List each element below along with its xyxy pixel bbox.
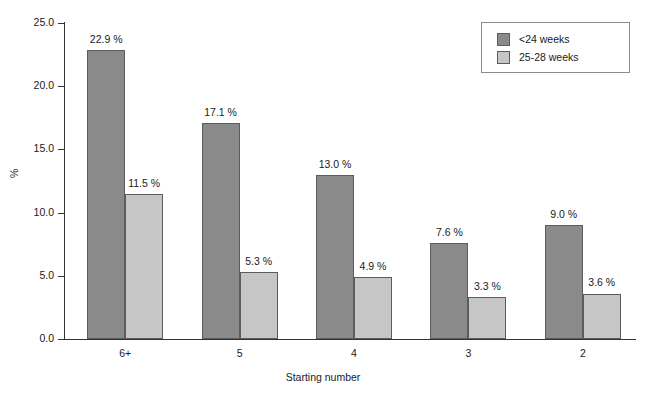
y-axis-tick-label: 25.0	[34, 15, 54, 30]
y-axis-tick-label: 10.0	[34, 205, 54, 220]
y-axis-tick-label: 5.0	[39, 268, 54, 283]
x-axis-tick-label: 2	[543, 347, 623, 359]
bar-value-label: 3.6 %	[569, 276, 635, 288]
bar-value-label: 3.3 %	[454, 280, 520, 292]
bar-value-label: 7.6 %	[416, 226, 482, 238]
bar	[240, 272, 278, 339]
y-axis-tick-label: 0.0	[39, 331, 54, 346]
y-axis-tick: 20.0	[0, 86, 64, 87]
bar-value-label: 9.0 %	[531, 208, 597, 220]
legend-label: 25-28 weeks	[519, 51, 579, 63]
y-axis-tick-label: 15.0	[34, 141, 54, 156]
bar-value-label: 5.3 %	[226, 255, 292, 267]
bar-value-label: 4.9 %	[340, 260, 406, 272]
legend-label: <24 weeks	[519, 33, 570, 45]
legend-swatch-icon	[497, 33, 510, 46]
bar	[316, 175, 354, 339]
tick-mark	[58, 339, 64, 340]
bar	[87, 50, 125, 339]
y-axis-title: %	[8, 169, 20, 178]
bar-chart: 0.05.010.015.020.025.0 % 22.9 %11.5 %17.…	[0, 0, 646, 396]
legend-entry-1: 25-28 weeks	[497, 49, 579, 65]
y-axis-tick: 5.0	[0, 276, 64, 277]
bar	[125, 194, 163, 339]
y-axis-tick: 25.0	[0, 23, 64, 24]
y-axis-tick: 10.0	[0, 213, 64, 214]
bar-value-label: 11.5 %	[111, 177, 177, 189]
bar-value-label: 17.1 %	[188, 106, 254, 118]
y-axis-tick: 0.0	[0, 339, 64, 340]
x-axis-tick-label: 6+	[85, 347, 165, 359]
y-axis-tick-label: 20.0	[34, 78, 54, 93]
y-axis-tick: 15.0	[0, 149, 64, 150]
legend: <24 weeks 25-28 weeks	[481, 22, 630, 73]
bar	[468, 297, 506, 339]
x-axis-tick-label: 5	[200, 347, 280, 359]
bar	[202, 123, 240, 339]
bar	[583, 294, 621, 340]
x-axis-tick-label: 4	[314, 347, 394, 359]
bar-value-label: 13.0 %	[302, 158, 368, 170]
x-axis-title: Starting number	[0, 371, 646, 383]
bar	[354, 277, 392, 339]
legend-entry-0: <24 weeks	[497, 31, 570, 47]
x-axis-line	[64, 339, 636, 340]
x-axis-tick-label: 3	[428, 347, 508, 359]
legend-swatch-icon	[497, 51, 510, 64]
bar-value-label: 22.9 %	[73, 33, 139, 45]
